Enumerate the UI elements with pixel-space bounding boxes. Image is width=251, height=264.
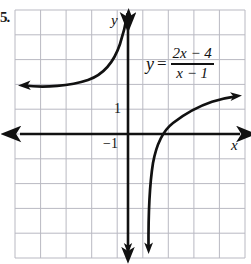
equation-fraction: 2x − 4 x − 1 [171, 46, 214, 81]
fraction-denominator: x − 1 [174, 65, 210, 82]
y-axis-label: y [111, 12, 118, 29]
tick-label-negative-one: −1 [103, 136, 118, 152]
fraction-numerator: 2x − 4 [171, 46, 214, 63]
x-axis-label: x [231, 137, 238, 154]
equation-lhs: y [146, 54, 157, 75]
equation-annotation: y = 2x − 4 x − 1 [146, 40, 238, 88]
equation-equals-sign: = [157, 54, 171, 74]
graph-figure: 5. [0, 0, 251, 264]
tick-label-positive-one: 1 [114, 101, 121, 117]
